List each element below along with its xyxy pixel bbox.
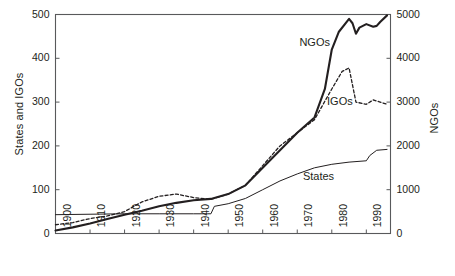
y-axis-right-tick-label: 1000 [397,183,431,195]
axis-ticks [56,15,391,234]
data-series [56,15,388,230]
y-axis-left-tick-label: 500 [18,8,50,20]
chart-figure: States and IGOs NGOs 0100200300400500010… [0,0,455,276]
y-axis-left-tick-label: 400 [18,51,50,63]
series-label-igos: IGOs [327,95,353,107]
series-line-ngos [56,15,388,230]
x-axis-tick-label: 1970 [302,204,314,238]
y-axis-left-tick-label: 200 [18,139,50,151]
x-axis-tick-label: 1920 [130,204,142,238]
series-label-ngos: NGOs [299,36,330,48]
x-axis-tick-label: 1900 [61,204,73,238]
y-axis-right-tick-label: 3000 [397,95,431,107]
x-axis-tick-label: 1960 [268,204,280,238]
x-axis-tick-label: 1940 [199,204,211,238]
y-axis-right-tick-label: 4000 [397,51,431,63]
y-axis-left-tick-label: 0 [18,227,50,239]
x-axis-tick-label: 1910 [95,204,107,238]
x-axis-tick-label: 1980 [337,204,349,238]
x-axis-tick-label: 1990 [371,204,383,238]
y-axis-right-tick-label: 2000 [397,139,431,151]
series-label-states: States [303,170,334,182]
y-axis-right-tick-label: 0 [397,227,431,239]
x-axis-tick-label: 1950 [233,204,245,238]
x-axis-tick-label: 1930 [164,204,176,238]
y-axis-left-tick-label: 100 [18,183,50,195]
y-axis-left-tick-label: 300 [18,95,50,107]
y-axis-left-title: States and IGOs [13,59,25,169]
y-axis-right-tick-label: 5000 [397,8,431,20]
plot-frame [56,15,391,234]
series-line-igos [56,68,388,225]
